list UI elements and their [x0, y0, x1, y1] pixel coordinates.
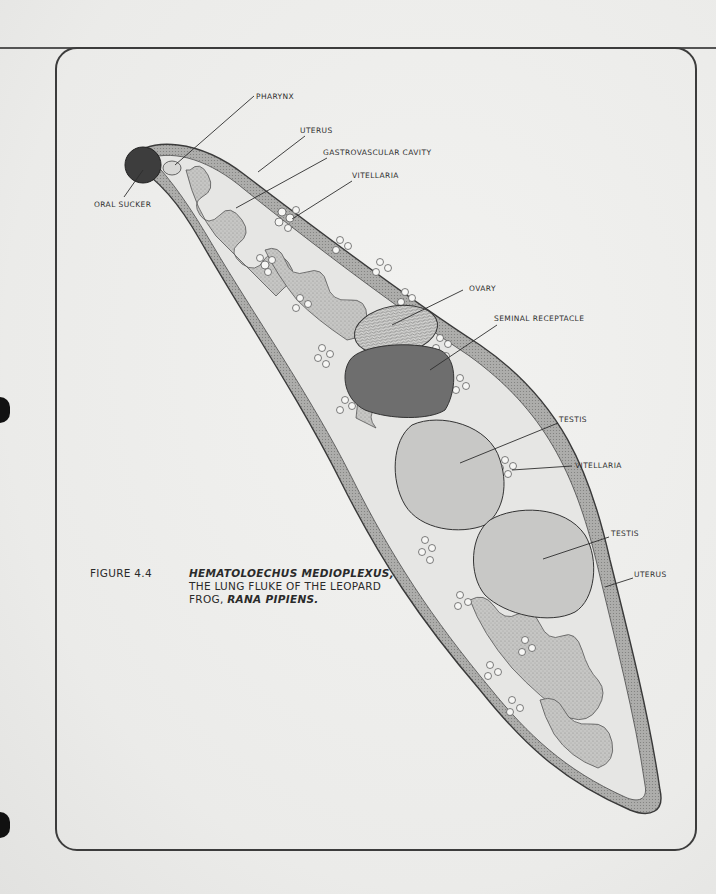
lung-fluke-illustration [0, 0, 716, 894]
caption-species-name: HEMATOLOECHUS MEDIOPLEXUS, [189, 567, 394, 579]
caption-line-2: THE LUNG FLUKE OF THE LEOPARD [189, 580, 381, 592]
label-testis-anterior: TESTIS [559, 415, 587, 424]
caption-line-3-prefix: FROG, [189, 593, 227, 605]
label-pharynx: PHARYNX [256, 92, 294, 101]
caption-host-name: RANA PIPIENS. [227, 593, 318, 605]
seminal-receptacle-shape [345, 345, 454, 418]
label-uterus-top: UTERUS [300, 126, 333, 135]
pharynx-shape [163, 161, 181, 175]
label-vitellaria-mid: VITELLARIA [575, 461, 622, 470]
label-ovary: OVARY [469, 284, 496, 293]
caption-body: HEMATOLOECHUS MEDIOPLEXUS, THE LUNG FLUK… [189, 567, 394, 606]
label-vitellaria-top: VITELLARIA [352, 171, 399, 180]
label-testis-posterior: TESTIS [611, 529, 639, 538]
figure-number: FIGURE 4.4 [90, 567, 152, 580]
label-seminal-receptacle: SEMINAL RECEPTACLE [494, 314, 584, 323]
label-gastrovascular-cavity: GASTROVASCULAR CAVITY [323, 148, 431, 157]
label-uterus-bottom: UTERUS [634, 570, 667, 579]
label-oral-sucker: ORAL SUCKER [94, 200, 151, 209]
oral-sucker-shape [125, 147, 161, 183]
